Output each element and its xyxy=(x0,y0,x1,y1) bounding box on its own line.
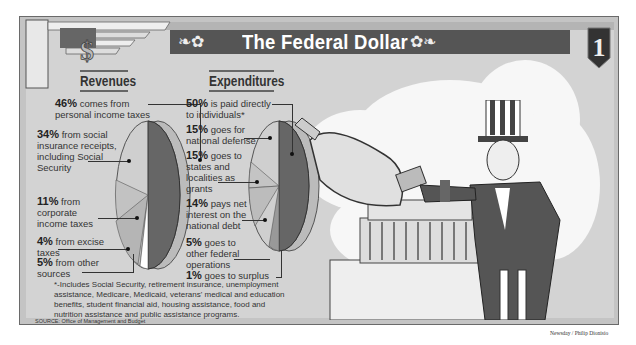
laurel-right-icon: ✿❧ xyxy=(410,32,436,51)
revenues-heading: Revenues xyxy=(80,73,136,89)
capitol-uncle-sam-illustration xyxy=(290,100,620,320)
divider xyxy=(209,90,274,92)
credit-line: Newsday / Philip Dionisio xyxy=(550,330,608,336)
source-note: SOURCE: Office of Management and Budget xyxy=(35,318,145,324)
revenue-label: 11% from corporate income taxes xyxy=(37,196,107,229)
expenditures-heading: Expenditures xyxy=(209,73,284,89)
footnote: *-Includes Social Security, retirement i… xyxy=(54,280,294,320)
revenue-label: 4% from excise taxes xyxy=(37,236,107,258)
revenue-label: 5% from other sources xyxy=(37,257,107,279)
page-title: The Federal Dollar xyxy=(242,30,408,54)
svg-text:$: $ xyxy=(80,35,94,66)
dollar-one-badge-icon: 1 xyxy=(584,22,614,70)
svg-text:1: 1 xyxy=(593,33,606,62)
revenue-label: 46% comes from personal income taxes xyxy=(55,98,160,120)
divider xyxy=(209,70,274,72)
divider xyxy=(80,90,128,92)
expenditure-label: 15% goes to states and localities as gra… xyxy=(186,150,248,194)
divider xyxy=(80,70,128,72)
expenditure-label: 50% is paid directly to individuals* xyxy=(186,98,276,120)
laurel-left-icon: ❧✿ xyxy=(178,32,204,51)
